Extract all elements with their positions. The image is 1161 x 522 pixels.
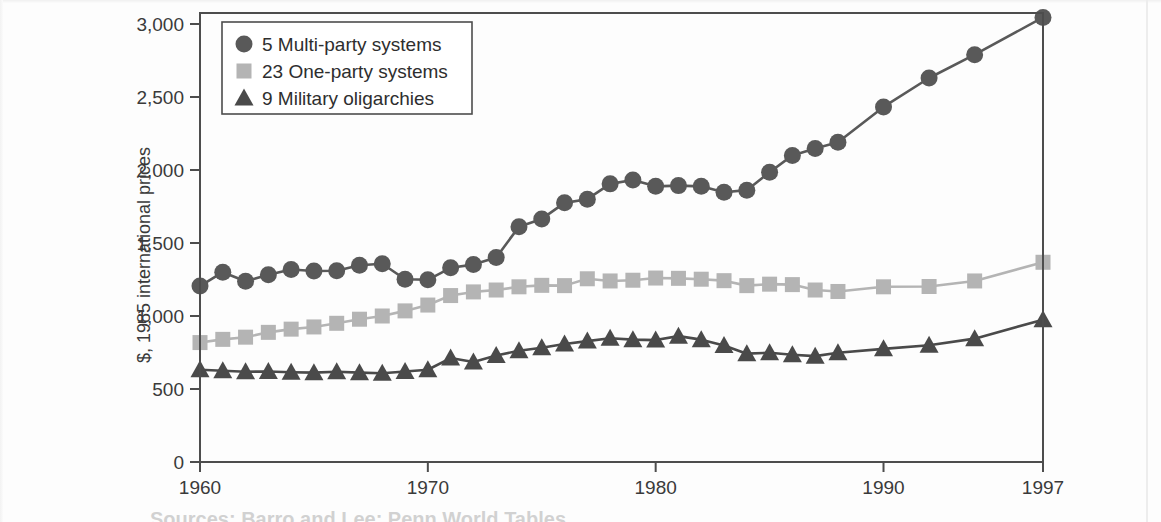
square-marker-point — [420, 298, 435, 313]
circle-marker-point — [442, 259, 459, 276]
circle-marker-point — [488, 249, 505, 266]
partial-caption: Sources: Barro and Lee; Penn World Table… — [150, 508, 570, 522]
x-tick-label: 1990 — [862, 477, 904, 498]
circle-marker-point — [624, 171, 641, 188]
square-marker-point — [922, 279, 937, 294]
square-marker-point — [352, 312, 367, 327]
square-marker-point — [808, 283, 823, 298]
circle-marker-point — [328, 262, 345, 279]
circle-marker-point — [761, 164, 778, 181]
square-marker-point — [762, 277, 777, 292]
legend-label-1: 5 Multi-party systems — [262, 34, 441, 55]
y-tick-label: 500 — [152, 379, 184, 400]
square-marker-point — [375, 309, 390, 324]
circle-marker-point — [670, 177, 687, 194]
y-tick-label: 3,000 — [136, 14, 184, 35]
square-marker-point — [261, 325, 276, 340]
x-tick-label: 1970 — [407, 477, 449, 498]
figure-panel: 05001,0001,5002,0002,5003,00019601970198… — [0, 0, 1161, 522]
square-marker-point — [306, 319, 321, 334]
circle-marker-point — [966, 46, 983, 63]
square-marker-point — [876, 279, 891, 294]
circle-marker-point — [510, 218, 527, 235]
square-marker-point — [671, 271, 686, 286]
circle-marker-point — [260, 266, 277, 283]
circle-marker-point — [374, 255, 391, 272]
circle-marker-point — [829, 134, 846, 151]
x-tick-label: 1960 — [179, 477, 221, 498]
circle-marker-point — [716, 184, 733, 201]
circle-marker-point — [875, 98, 892, 115]
y-tick-label: 2,500 — [136, 87, 184, 108]
circle-marker-point — [465, 256, 482, 273]
legend-label-2: 23 One-party systems — [262, 61, 448, 82]
square-marker-point — [443, 288, 458, 303]
circle-marker-point — [579, 191, 596, 208]
circle-marker-point — [283, 261, 300, 278]
x-tick-label: 1980 — [635, 477, 677, 498]
circle-marker-point — [921, 70, 938, 87]
circle-marker-point — [419, 271, 436, 288]
square-marker-point — [329, 316, 344, 331]
square-marker-point — [785, 277, 800, 292]
circle-marker-point — [647, 178, 664, 195]
square-marker-point — [215, 332, 230, 347]
circle-marker-point — [305, 263, 322, 280]
circle-marker-point — [533, 210, 550, 227]
circle-marker-point — [784, 147, 801, 164]
square-marker-point — [238, 330, 253, 345]
circle-marker-point — [397, 271, 414, 288]
square-marker-point — [648, 271, 663, 286]
circle-marker-point — [214, 264, 231, 281]
square-marker-point — [580, 271, 595, 286]
triangle-marker-point — [441, 349, 460, 366]
line-chart: 05001,0001,5002,0002,5003,00019601970198… — [0, 0, 1161, 522]
square-marker-point — [398, 303, 413, 318]
square-marker-point — [466, 284, 481, 299]
square-marker-point — [284, 322, 299, 337]
triangle-marker-point — [601, 329, 620, 346]
square-marker-point — [603, 273, 618, 288]
legend-square-marker — [237, 64, 252, 79]
square-marker-point — [967, 273, 982, 288]
circle-marker-point — [556, 194, 573, 211]
legend-label-3: 9 Military oligarchies — [262, 88, 434, 109]
circle-marker-point — [693, 178, 710, 195]
circle-marker-point — [351, 257, 368, 274]
square-marker-point — [739, 278, 754, 293]
triangle-marker-point — [418, 360, 437, 377]
square-marker-point — [717, 273, 732, 288]
series-line — [200, 320, 1043, 374]
square-marker-point — [625, 273, 640, 288]
circle-marker-point — [807, 140, 824, 157]
circle-marker-point — [237, 273, 254, 290]
series-line — [200, 262, 1043, 342]
square-marker-point — [694, 272, 709, 287]
square-marker-point — [557, 278, 572, 293]
y-axis-title: $, 1985 international prices — [134, 147, 154, 363]
triangle-marker-point — [669, 327, 688, 344]
square-marker-point — [511, 279, 526, 294]
legend-layer: 5 Multi-party systems23 One-party system… — [222, 22, 472, 114]
square-marker-point — [830, 284, 845, 299]
x-tick-label: 1997 — [1022, 477, 1064, 498]
circle-marker-point — [602, 175, 619, 192]
square-marker-point — [534, 278, 549, 293]
y-tick-label: 0 — [173, 452, 184, 473]
circle-marker-point — [738, 182, 755, 199]
legend-circle-marker — [236, 36, 253, 53]
square-marker-point — [489, 283, 504, 298]
